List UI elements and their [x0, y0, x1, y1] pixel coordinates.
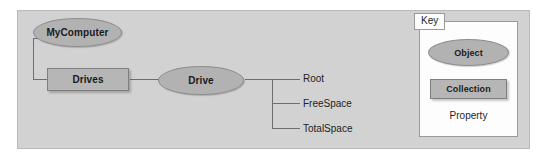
diagram-screenshot: MyComputer Drives Drive Root FreeSpace T… — [0, 0, 547, 160]
node-drive-label: Drive — [188, 75, 214, 86]
key-collection-label: Collection — [446, 84, 491, 94]
node-mycomputer-label: MyComputer — [46, 27, 108, 38]
node-mycomputer[interactable]: MyComputer — [33, 18, 122, 47]
node-drives-label: Drives — [72, 74, 103, 85]
key-legend-collection: Collection — [430, 79, 507, 99]
property-totalspace: TotalSpace — [303, 123, 352, 134]
key-object-label: Object — [454, 48, 483, 58]
node-drives[interactable]: Drives — [47, 68, 129, 91]
key-legend-object: Object — [428, 39, 509, 66]
key-legend-property: Property — [419, 110, 518, 121]
property-freespace: FreeSpace — [303, 98, 352, 109]
node-drive[interactable]: Drive — [158, 66, 244, 95]
property-root: Root — [303, 73, 324, 84]
key-title: Key — [414, 13, 445, 30]
